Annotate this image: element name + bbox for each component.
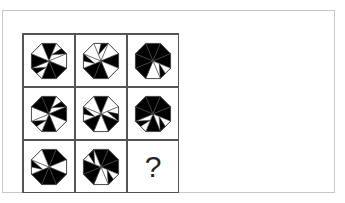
cell-r0-c2 — [127, 34, 179, 87]
cell-r1-c1 — [75, 87, 127, 140]
octagon-pinwheel-icon — [29, 41, 69, 81]
puzzle-frame: ? — [2, 10, 335, 193]
cell-r1-c0 — [23, 87, 75, 140]
octagon-pinwheel-icon — [81, 41, 121, 81]
octagon-pinwheel-icon — [133, 94, 173, 134]
cell-r2-c1 — [75, 140, 127, 193]
octagon-pinwheel-icon — [29, 147, 69, 187]
octagon-pinwheel-icon — [81, 147, 121, 187]
cell-r0-c1 — [75, 34, 127, 87]
octagon-pinwheel-icon — [29, 94, 69, 134]
cell-r2-c0 — [23, 140, 75, 193]
octagon-pinwheel-icon — [133, 41, 173, 81]
puzzle-grid: ? — [22, 33, 179, 193]
cell-r0-c0 — [23, 34, 75, 87]
question-mark: ? — [145, 152, 162, 182]
cell-r2-c2-answer[interactable]: ? — [127, 140, 179, 193]
octagon-pinwheel-icon — [81, 94, 121, 134]
cell-r1-c2 — [127, 87, 179, 140]
